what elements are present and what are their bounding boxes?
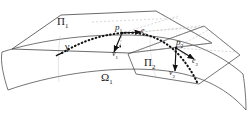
label-point-p1: p1 bbox=[115, 23, 122, 34]
label-vector-e2: e2 bbox=[192, 57, 198, 68]
label-vector-e1: e1 bbox=[141, 27, 147, 38]
label-vector-v1: v1 bbox=[112, 50, 118, 61]
label-point-p2: p2 bbox=[176, 38, 183, 49]
geometry-figure: Π1 Π2 Ω1 γ p1 p2 v1 e1 v2 e2 bbox=[0, 0, 247, 123]
label-plane-pi1: Π1 bbox=[57, 16, 68, 30]
label-surface-omega1: Ω1 bbox=[101, 72, 113, 86]
label-vector-v2: v2 bbox=[169, 69, 175, 80]
surface-omega1 bbox=[1, 35, 246, 110]
label-curve-gamma: γ bbox=[65, 42, 69, 52]
label-plane-pi2: Π2 bbox=[144, 57, 155, 71]
